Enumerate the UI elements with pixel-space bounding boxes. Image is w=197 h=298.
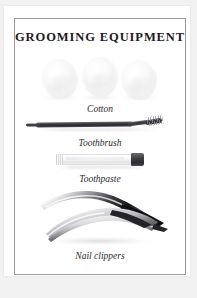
toothbrush-handle <box>36 121 132 127</box>
caption-cotton: Cotton <box>14 104 186 114</box>
nail-clippers-icon <box>26 184 176 250</box>
cotton-ball-icon <box>120 59 157 100</box>
caption-nail-clippers: Nail clippers <box>14 251 186 261</box>
toothpaste-crimp-seal <box>56 154 63 165</box>
clippers-shadow <box>42 236 158 246</box>
paper-sheet: GROOMING EQUIPMENT Cotton Toothbrush <box>4 6 190 276</box>
specimen-toothbrush <box>14 114 186 136</box>
specimen-cotton <box>14 56 186 102</box>
caption-toothbrush: Toothbrush <box>14 138 186 148</box>
toothpaste-highlight <box>66 157 124 160</box>
specimen-toothpaste <box>14 150 186 172</box>
page-title: GROOMING EQUIPMENT <box>14 30 186 45</box>
cotton-ball-icon <box>41 58 80 100</box>
cotton-ball-icon <box>81 56 119 98</box>
toothpaste-cap <box>131 153 144 166</box>
toothbrush-shadow <box>38 128 158 131</box>
specimen-nail-clippers <box>14 184 186 250</box>
plate-background: GROOMING EQUIPMENT Cotton Toothbrush <box>0 0 197 298</box>
toothbrush-bristles <box>146 115 163 126</box>
caption-toothpaste: Toothpaste <box>14 174 186 184</box>
plate-content: GROOMING EQUIPMENT Cotton Toothbrush <box>14 18 186 275</box>
